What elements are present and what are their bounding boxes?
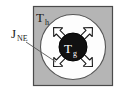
flux-label: J bbox=[11, 26, 16, 41]
host-temperature-label-subscript: h bbox=[45, 18, 49, 27]
thermal-grain-diagram: T h T g J NE bbox=[0, 0, 123, 92]
figure-root: T h T g J NE bbox=[0, 0, 123, 92]
host-temperature-label: T bbox=[36, 10, 44, 25]
flux-label-subscript: NE bbox=[17, 34, 28, 43]
grain-temperature-label-subscript: g bbox=[73, 49, 77, 58]
grain-temperature-label: T bbox=[64, 41, 72, 56]
